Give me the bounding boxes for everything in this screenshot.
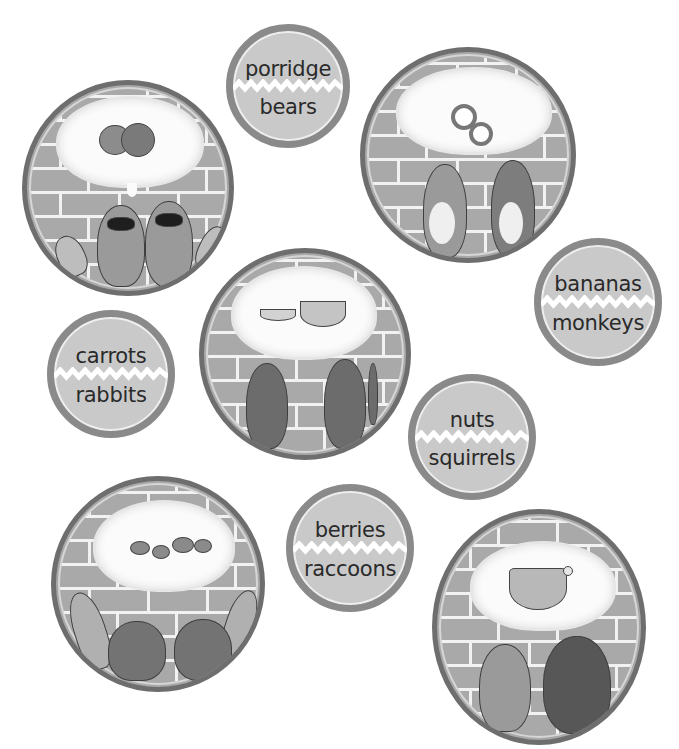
food-label: bananas [541,272,655,296]
animal-label: monkeys [541,311,655,335]
monkey-tail [368,363,378,425]
squirrel-right [174,619,232,681]
zigzag-divider [415,430,529,444]
rabbits-picture[interactable] [360,47,576,263]
monkeys-picture[interactable] [199,248,411,460]
nut-icon [152,545,170,559]
banana-icon [300,301,346,327]
raccoons-picture[interactable] [22,80,234,296]
animal-label: raccoons [293,557,407,581]
berries-icon [121,123,155,157]
zigzag-divider [541,295,655,309]
food-label: porridge [233,57,343,81]
word-circle-bananas-monkeys[interactable]: bananas monkeys [534,238,662,366]
animal-label: squirrels [415,446,529,470]
word-circle-nuts-squirrels[interactable]: nuts squirrels [408,374,536,500]
monkey-right [324,359,366,449]
thought-bubble-tail [127,183,137,197]
word-circle-porridge-bears[interactable]: porridge bears [226,24,350,148]
raccoon-mask-icon [107,217,135,231]
animal-label: bears [233,95,343,119]
nut-icon [194,539,212,553]
nut-icon [172,537,194,553]
bears-picture[interactable] [432,509,646,745]
food-label: berries [293,518,407,542]
bear-right [543,636,611,734]
bear-left [479,644,531,732]
spoon-icon [563,566,573,576]
zigzag-divider [293,541,407,555]
animal-label: rabbits [54,383,168,407]
food-label: carrots [54,344,168,368]
word-circle-berries-raccoons[interactable]: berries raccoons [286,484,414,612]
rabbit-belly [499,202,523,244]
nut-icon [130,541,150,555]
rabbit-belly [429,202,455,244]
squirrel-left [108,621,166,681]
zigzag-divider [233,79,343,93]
zigzag-divider [54,367,168,381]
word-circle-carrots-rabbits[interactable]: carrots rabbits [47,310,175,438]
squirrels-picture[interactable] [51,476,265,692]
carrot-icon [469,122,493,146]
porridge-bowl-icon [509,568,567,610]
food-label: nuts [415,408,529,432]
banana-icon [260,309,296,321]
monkey-left [246,363,288,449]
raccoon-mask-icon [155,213,183,227]
